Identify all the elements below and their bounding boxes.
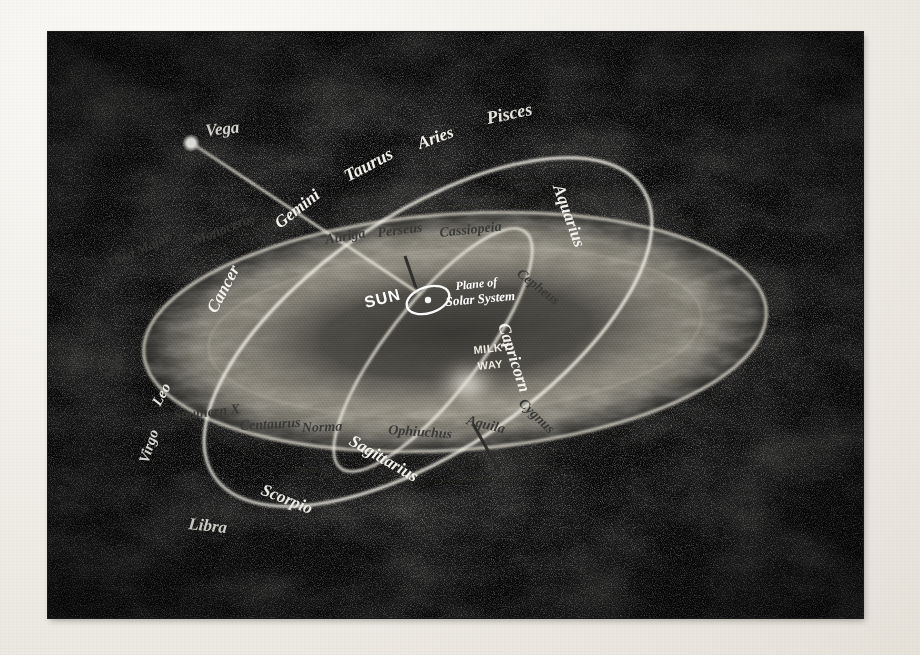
diagram-canvas: Vega SUN Plane of Solar System MILKY WAY…: [48, 32, 863, 618]
astronomy-plate: Vega SUN Plane of Solar System MILKY WAY…: [48, 32, 863, 618]
label-constellation-norma: Norma: [301, 419, 343, 435]
vega-star: [182, 134, 200, 152]
label-constellation-centaurus: Centaurus: [239, 415, 301, 433]
label-vega: Vega: [204, 117, 240, 140]
